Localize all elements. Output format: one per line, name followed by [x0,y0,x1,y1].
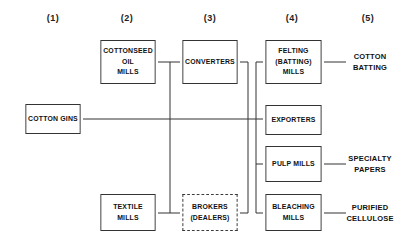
node-cottonseed-oil-mills: COTTONSEED OIL MILLS [100,40,155,84]
node-label: EXPORTERS [271,115,315,126]
node-label: COTTON GINS [28,114,78,125]
output-specialty-papers: SPECIALTY PAPERS [344,154,396,176]
output-purified-cellulose: PURIFIED CELLULOSE [340,203,400,225]
node-converters: CONVERTERS [182,40,237,84]
column-label-2: (2) [121,13,134,23]
node-pulp-mills: PULP MILLS [265,146,321,182]
node-label: CONVERTERS [185,57,235,68]
output-cotton-batting: COTTON BATTING [344,52,396,74]
node-label: BLEACHING MILLS [272,202,315,224]
node-cotton-gins: COTTON GINS [25,104,80,134]
node-bleaching-mills: BLEACHING MILLS [265,194,321,231]
node-felting-batting-mills: FELTING (BATTING) MILLS [265,40,321,84]
column-label-5: (5) [362,13,375,23]
node-label: PULP MILLS [272,159,315,170]
node-label: BROKERS (DEALERS) [190,202,229,224]
node-textile-mills: TEXTILE MILLS [100,194,155,231]
node-brokers-dealers: BROKERS (DEALERS) [182,194,237,231]
flow-diagram: (1) (2) (3) (4) (5) COTTON GINS COTTONSE… [0,0,406,247]
node-label: COTTONSEED OIL MILLS [103,46,153,79]
node-label: FELTING (BATTING) MILLS [275,46,311,79]
node-exporters: EXPORTERS [265,105,321,135]
column-label-1: (1) [47,13,60,23]
node-label: TEXTILE MILLS [113,202,143,224]
column-label-4: (4) [286,13,299,23]
column-label-3: (3) [204,13,217,23]
